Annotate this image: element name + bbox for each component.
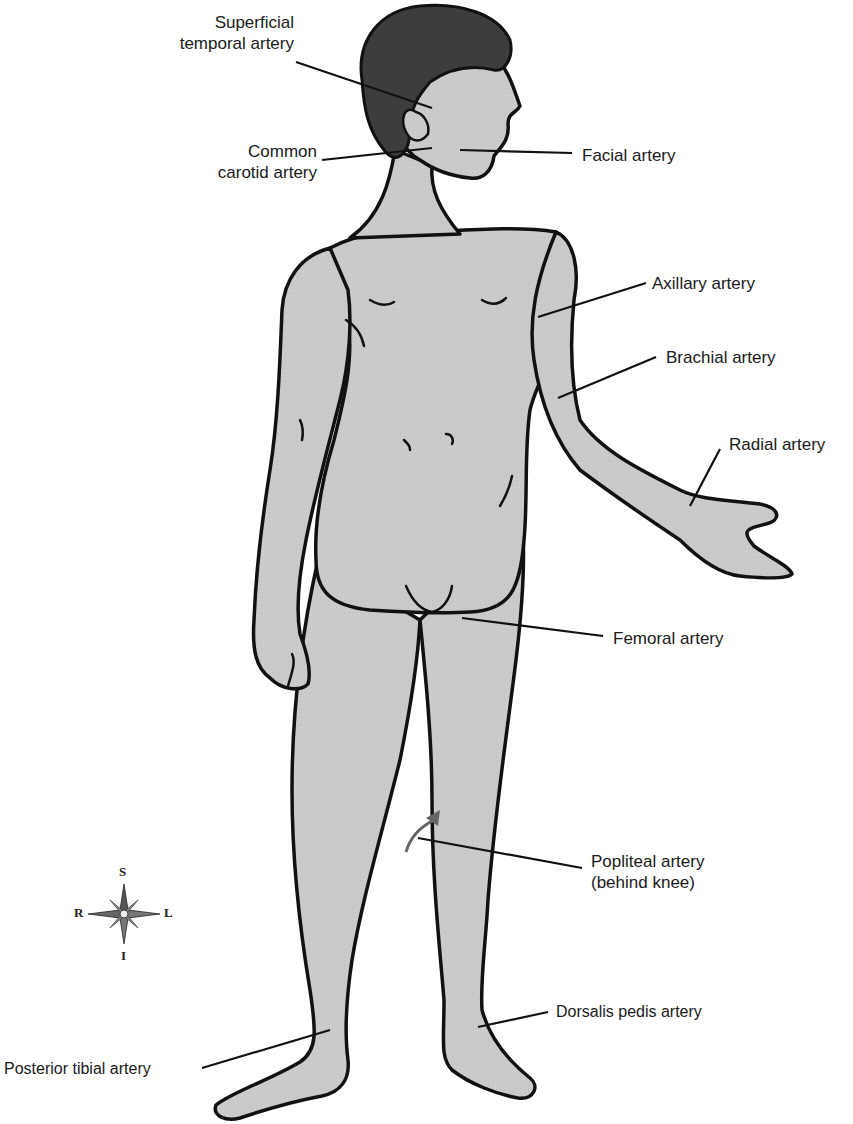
anatomy-figure [0, 0, 853, 1124]
right-leg [215, 560, 420, 1119]
label-superficial-temporal-artery: Superficial temporal artery [164, 12, 294, 54]
label-common-carotid-artery: Common carotid artery [196, 141, 317, 183]
label-popliteal-artery: Popliteal artery (behind knee) [591, 851, 704, 893]
label-line-1: Popliteal artery [591, 851, 704, 872]
label-dorsalis-pedis-artery: Dorsalis pedis artery [556, 1001, 702, 1022]
compass-left-label: L [164, 905, 173, 921]
popliteal-arrow [406, 820, 434, 852]
label-line-1: Common [196, 141, 317, 162]
label-text: Axillary artery [652, 274, 755, 293]
label-line-2: temporal artery [164, 33, 294, 54]
label-text: Radial artery [729, 435, 825, 454]
label-text: Posterior tibial artery [4, 1060, 151, 1077]
label-text: Brachial artery [666, 348, 776, 367]
label-text: Facial artery [582, 146, 676, 165]
compass-right-label: R [74, 905, 83, 921]
label-line-2: carotid artery [196, 162, 317, 183]
compass-superior-label: S [119, 864, 126, 880]
label-text: Femoral artery [613, 629, 724, 648]
label-radial-artery: Radial artery [729, 434, 825, 455]
compass-inferior-label: I [121, 948, 126, 964]
label-posterior-tibial-artery: Posterior tibial artery [4, 1058, 151, 1079]
label-axillary-artery: Axillary artery [652, 273, 755, 294]
leader-dorsalis-pedis [478, 1012, 548, 1027]
torso [316, 229, 574, 613]
human-body [215, 34, 792, 1119]
label-line-1: Superficial [164, 12, 294, 33]
label-femoral-artery: Femoral artery [613, 628, 724, 649]
orientation-compass-icon [88, 884, 160, 944]
label-text: Dorsalis pedis artery [556, 1003, 702, 1020]
label-brachial-artery: Brachial artery [666, 347, 776, 368]
label-line-2: (behind knee) [591, 872, 704, 893]
label-facial-artery: Facial artery [582, 145, 676, 166]
